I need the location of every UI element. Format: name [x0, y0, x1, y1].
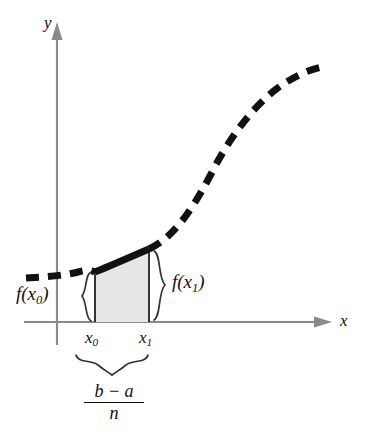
f-x1-var: x	[184, 271, 192, 292]
brace-subinterval-width	[76, 355, 148, 375]
x1-sub: 1	[147, 336, 153, 348]
x0-var: x	[85, 328, 93, 347]
f-x0-label: f(x0)	[16, 284, 49, 306]
f-x1-close: )	[198, 271, 204, 292]
curve-dashed-right	[149, 67, 322, 249]
x1-tick-label: x1	[139, 329, 152, 348]
x0-sub: 0	[93, 336, 99, 348]
fraction-numerator: b − a	[84, 382, 144, 403]
f-x0-close: )	[42, 283, 48, 304]
y-axis-label: y	[44, 14, 52, 31]
curve-dashed-left	[26, 270, 95, 278]
f-x0-var: x	[28, 283, 36, 304]
x1-var: x	[139, 328, 147, 347]
diagram-svg	[0, 0, 368, 440]
fraction-denominator: n	[84, 403, 144, 423]
brace-f-x0	[82, 272, 91, 321]
y-axis	[52, 22, 63, 345]
x0-tick-label: x0	[85, 329, 98, 348]
x-axis	[24, 317, 332, 328]
f-x1-label: f(x1)	[172, 272, 205, 294]
x-axis-label: x	[340, 312, 348, 329]
subinterval-width-fraction: b − a n	[84, 382, 144, 423]
figure-canvas: y x f(x0) f(x1) x0 x1 b − a n	[0, 0, 368, 440]
brace-f-x1	[154, 251, 165, 320]
